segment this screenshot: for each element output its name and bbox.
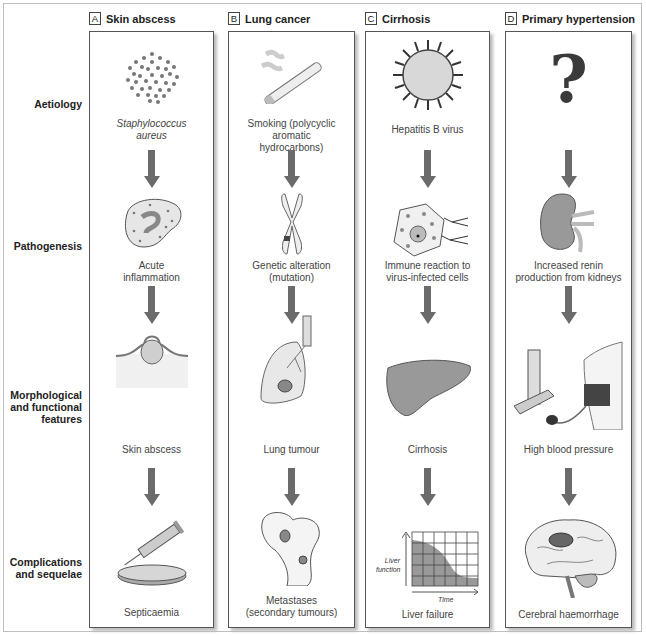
column-lung-cancer: Smoking (polycyclic aromatic hydrocarbon… bbox=[228, 31, 355, 628]
virus-icon bbox=[366, 38, 489, 112]
row-label-aetiology: Aetiology bbox=[0, 98, 82, 110]
panel-letter: B bbox=[228, 12, 240, 25]
skin-abscess-icon bbox=[90, 330, 213, 388]
caption-cerebral-haemorrhage: Cerebral haemorrhage bbox=[506, 609, 631, 621]
down-arrow-icon bbox=[284, 150, 300, 188]
inflammatory-cell-icon bbox=[90, 197, 213, 249]
column-heading-d: D Primary hypertension bbox=[505, 12, 635, 25]
down-arrow-icon bbox=[144, 150, 160, 188]
bacteria-cluster-icon bbox=[90, 50, 213, 105]
bone-with-metastases-icon bbox=[229, 510, 354, 586]
column-title: Lung cancer bbox=[245, 13, 310, 25]
caption-lung-tumour: Lung tumour bbox=[229, 444, 354, 456]
question-mark-icon: ? bbox=[506, 46, 631, 112]
liver-function-graph: Liver function Time bbox=[376, 530, 486, 606]
down-arrow-icon bbox=[561, 150, 577, 188]
caption-metastases: Metastases (secondary tumours) bbox=[229, 595, 354, 619]
infected-cell-with-antibodies-icon bbox=[366, 202, 489, 258]
down-arrow-icon bbox=[561, 286, 577, 324]
column-title: Skin abscess bbox=[106, 13, 176, 25]
caption-immune-reaction: Immune reaction to virus-infected cells bbox=[366, 260, 489, 284]
chromosome-icon bbox=[229, 192, 354, 256]
caption-hepatitis-b: Hepatitis B virus bbox=[366, 124, 489, 136]
caption-high-blood-pressure: High blood pressure bbox=[506, 444, 631, 456]
panel-letter: D bbox=[505, 12, 517, 25]
column-title: Cirrhosis bbox=[382, 13, 430, 25]
caption-increased-renin: Increased renin production from kidneys bbox=[506, 260, 631, 284]
down-arrow-icon bbox=[420, 468, 436, 506]
down-arrow-icon bbox=[284, 468, 300, 506]
row-label-complications: Complications and sequelae bbox=[2, 556, 82, 580]
graph-ylabel: Liver function bbox=[376, 556, 400, 574]
kidney-icon bbox=[506, 192, 631, 254]
row-label-morphological: Morphological and functional features bbox=[0, 389, 82, 425]
caption-septicaemia: Septicaemia bbox=[90, 607, 213, 619]
caption-cirrhosis: Cirrhosis bbox=[366, 444, 489, 456]
panel-letter: A bbox=[89, 12, 101, 25]
syringe-and-petri-dish-icon bbox=[90, 510, 213, 590]
graph-xlabel: Time bbox=[438, 596, 454, 603]
lung-with-tumour-icon bbox=[229, 312, 354, 408]
down-arrow-icon bbox=[420, 286, 436, 324]
down-arrow-icon bbox=[144, 468, 160, 506]
cirrhotic-liver-icon bbox=[366, 358, 489, 420]
column-primary-hypertension: ? Increased renin production from kidney… bbox=[505, 31, 632, 628]
sphygmomanometer-icon bbox=[506, 330, 631, 430]
caption-liver-failure: Liver failure bbox=[366, 609, 489, 621]
column-title: Primary hypertension bbox=[522, 13, 635, 25]
column-skin-abscess: Staphylococcus aureus Acute inflammation… bbox=[89, 31, 214, 628]
down-arrow-icon bbox=[561, 468, 577, 506]
caption-skin-abscess: Skin abscess bbox=[90, 444, 213, 456]
column-heading-a: A Skin abscess bbox=[89, 12, 176, 25]
down-arrow-icon bbox=[144, 286, 160, 324]
panel-letter: C bbox=[365, 12, 377, 25]
cigarette-icon bbox=[229, 44, 354, 104]
caption-genetic-alteration: Genetic alteration (mutation) bbox=[229, 260, 354, 284]
down-arrow-icon bbox=[420, 150, 436, 188]
column-cirrhosis: Hepatitis B virus Immune reaction to vir… bbox=[365, 31, 490, 628]
column-heading-b: B Lung cancer bbox=[228, 12, 310, 25]
caption-acute-inflammation: Acute inflammation bbox=[90, 260, 213, 284]
caption-staphylococcus: Staphylococcus aureus bbox=[90, 118, 213, 142]
caption-smoking: Smoking (polycyclic aromatic hydrocarbon… bbox=[229, 118, 354, 154]
column-heading-c: C Cirrhosis bbox=[365, 12, 430, 25]
row-label-pathogenesis: Pathogenesis bbox=[0, 240, 82, 252]
brain-haemorrhage-icon bbox=[506, 518, 631, 598]
